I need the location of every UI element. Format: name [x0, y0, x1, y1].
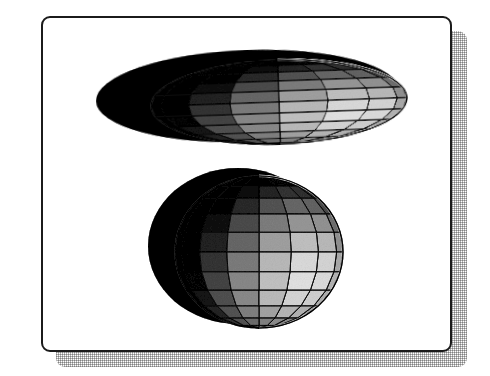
mesh-facet — [230, 102, 279, 115]
mesh-facet — [188, 93, 232, 105]
mesh-facet — [259, 232, 291, 252]
mesh-facet — [279, 89, 328, 102]
mesh-facet — [279, 100, 328, 113]
mesh-facet — [259, 272, 290, 290]
mesh-facet — [259, 198, 287, 214]
mesh-facet — [181, 232, 201, 252]
mesh-facet — [366, 87, 397, 99]
mesh-facet — [231, 198, 259, 214]
mesh-facet — [290, 252, 318, 272]
mesh-facet — [316, 252, 336, 272]
mesh-facet — [259, 252, 291, 272]
mesh-facet — [290, 232, 318, 252]
mesh-facet — [231, 290, 259, 306]
mesh-facet — [228, 214, 259, 232]
ellipsoid-objects-layer — [94, 45, 408, 328]
mesh-facet — [200, 252, 228, 272]
mesh-facet — [259, 290, 287, 306]
mesh-facet — [227, 232, 259, 252]
mesh-facet — [181, 252, 201, 272]
ellipsoid-plot-canvas — [43, 18, 454, 354]
mesh-facet — [316, 232, 336, 252]
figure-root — [0, 0, 490, 376]
mesh-facet — [189, 104, 233, 116]
mesh-facet — [227, 252, 259, 272]
mesh-facet — [230, 91, 279, 104]
mesh-facet — [200, 232, 228, 252]
mesh-facet — [228, 272, 259, 290]
prolate-ellipsoid-front — [175, 176, 343, 328]
mesh-facet — [160, 94, 191, 106]
mesh-facet — [366, 98, 397, 110]
figure-panel — [41, 16, 452, 352]
mesh-facet — [326, 88, 370, 100]
mesh-facet — [326, 99, 370, 111]
mesh-facet — [161, 105, 192, 117]
mesh-facet — [259, 214, 290, 232]
